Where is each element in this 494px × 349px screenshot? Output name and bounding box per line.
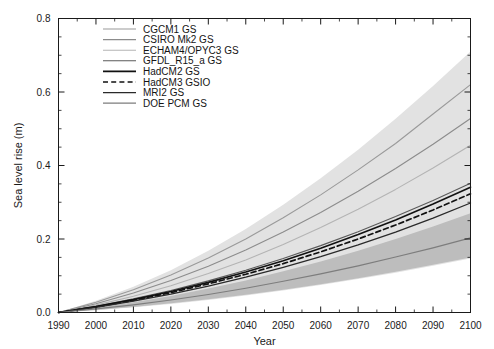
legend-label-4: HadCM2 GS xyxy=(143,66,200,77)
x-tick-label: 1990 xyxy=(47,320,70,331)
x-axis-label: Year xyxy=(253,335,276,347)
x-tick-label: 2100 xyxy=(459,320,482,331)
y-tick-label: 0.4 xyxy=(37,160,51,171)
legend-label-2: ECHAM4/OPYC3 GS xyxy=(143,45,239,56)
x-tick-label: 2030 xyxy=(197,320,220,331)
y-axis-label: Sea level rise (m) xyxy=(12,123,24,209)
x-tick-label: 2080 xyxy=(384,320,407,331)
legend-label-5: HadCM3 GSIO xyxy=(143,77,210,88)
y-tick-label: 0.0 xyxy=(37,307,51,318)
y-tick-label: 0.2 xyxy=(37,234,51,245)
x-tick-label: 2050 xyxy=(272,320,295,331)
legend-label-1: CSIRO Mk2 GS xyxy=(143,34,214,45)
legend: CGCM1 GSCSIRO Mk2 GSECHAM4/OPYC3 GSGFDL_… xyxy=(103,24,239,109)
sea-level-rise-chart: 1990200020102020203020402050206020702080… xyxy=(0,0,494,349)
chart-canvas: 1990200020102020203020402050206020702080… xyxy=(0,0,494,349)
x-tick-label: 2020 xyxy=(160,320,183,331)
x-tick-label: 2010 xyxy=(122,320,145,331)
x-tick-label: 2090 xyxy=(422,320,445,331)
legend-label-0: CGCM1 GS xyxy=(143,24,197,35)
x-tick-label: 2070 xyxy=(347,320,370,331)
legend-label-7: DOE PCM GS xyxy=(143,98,207,109)
x-tick-label: 2000 xyxy=(85,320,108,331)
legend-label-6: MRI2 GS xyxy=(143,87,184,98)
legend-label-3: GFDL_R15_a GS xyxy=(143,55,222,66)
y-tick-label: 0.8 xyxy=(37,13,51,24)
x-tick-label: 2060 xyxy=(310,320,333,331)
y-tick-label: 0.6 xyxy=(37,87,51,98)
x-tick-label: 2040 xyxy=(235,320,258,331)
